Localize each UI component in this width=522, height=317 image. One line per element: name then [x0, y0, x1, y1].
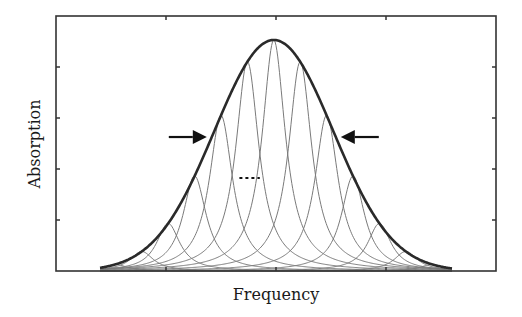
- left-arrow-icon: [169, 130, 207, 144]
- plot-frame: [56, 16, 496, 271]
- component-line-10: [100, 176, 452, 271]
- right-arrow-icon: [341, 130, 379, 144]
- component-line-6: [100, 62, 452, 270]
- component-line-7: [100, 40, 452, 269]
- component-line-4: [100, 176, 452, 271]
- x-axis-label: Frequency: [233, 285, 320, 304]
- chart: Frequency Absorption: [0, 0, 522, 317]
- component-line-8: [100, 62, 452, 270]
- component-lines: [100, 40, 452, 271]
- envelope-curve: [100, 40, 452, 268]
- annotations: [169, 130, 379, 178]
- y-axis-label: Absorption: [25, 99, 44, 189]
- axis-ticks: [56, 16, 496, 271]
